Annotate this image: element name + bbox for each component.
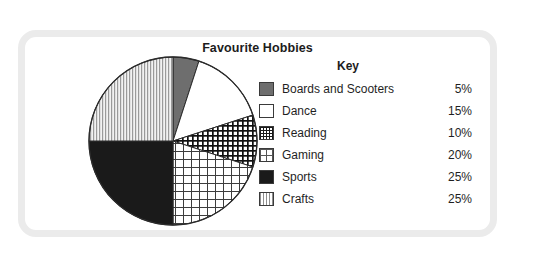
legend-item-dance: Dance 15% — [259, 100, 474, 122]
legend-swatch-icon-crafts — [259, 192, 274, 206]
legend-label-boards-and-scooters: Boards and Scooters — [282, 82, 438, 96]
chart-title: Favourite Hobbies — [25, 41, 490, 55]
legend-item-crafts: Crafts 25% — [259, 188, 474, 210]
legend-title: Key — [259, 59, 437, 73]
legend-label-gaming: Gaming — [282, 148, 438, 162]
legend-value-sports: 25% — [438, 170, 472, 184]
legend-item-boards-and-scooters: Boards and Scooters 5% — [259, 78, 474, 100]
legend-swatch-icon-reading — [259, 126, 274, 140]
legend-label-sports: Sports — [282, 170, 438, 184]
chart-card: Favourite Hobbies — [18, 30, 497, 237]
legend: Key Boards and Scooters 5% Dance 15% Rea… — [259, 59, 474, 210]
legend-swatch-icon-boards-and-scooters — [259, 82, 274, 96]
legend-value-crafts: 25% — [438, 192, 472, 206]
legend-swatch-icon-dance — [259, 104, 274, 118]
legend-value-boards-and-scooters: 5% — [438, 82, 472, 96]
legend-value-gaming: 20% — [438, 148, 472, 162]
legend-value-reading: 10% — [438, 126, 472, 140]
legend-label-reading: Reading — [282, 126, 438, 140]
legend-swatch-icon-sports — [259, 170, 274, 184]
legend-value-dance: 15% — [438, 104, 472, 118]
pie-slice-sports — [89, 141, 173, 225]
legend-label-dance: Dance — [282, 104, 438, 118]
legend-label-crafts: Crafts — [282, 192, 438, 206]
legend-item-gaming: Gaming 20% — [259, 144, 474, 166]
pie-slice-crafts — [89, 57, 173, 141]
pie-chart — [87, 55, 259, 227]
legend-swatch-icon-gaming — [259, 148, 274, 162]
legend-item-sports: Sports 25% — [259, 166, 474, 188]
pie-chart-svg — [87, 55, 259, 227]
legend-item-reading: Reading 10% — [259, 122, 474, 144]
